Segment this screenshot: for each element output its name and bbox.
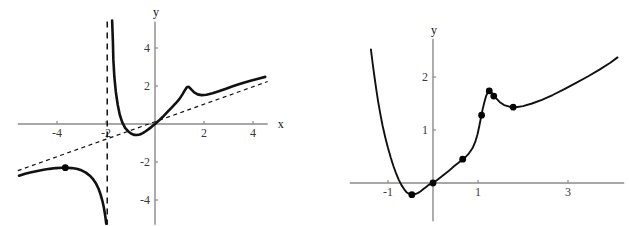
main-curve — [371, 49, 618, 194]
y-axis-label: y — [153, 5, 159, 19]
x-tick-label: -4 — [52, 126, 62, 140]
x-tick-label: 1 — [475, 185, 481, 199]
x-axis-label: x — [278, 117, 284, 131]
x-tick-label: 3 — [565, 185, 571, 199]
right-plot-panel: -11312xy — [314, 0, 628, 226]
trough-point — [510, 104, 517, 111]
rise-point — [459, 156, 466, 163]
y-tick-label: -2 — [140, 155, 150, 169]
left-plot-svg: -4-224-4-224xy — [0, 0, 314, 226]
pre-peak-point — [478, 112, 485, 119]
x-tick-label: -2 — [101, 126, 111, 140]
right-plot-svg: -11312xy — [314, 0, 628, 226]
y-tick-label: -4 — [140, 193, 150, 207]
y-tick-label: 2 — [144, 79, 150, 93]
branch-upper-right — [112, 20, 265, 135]
figure-container: -4-224-4-224xy -11312xy — [0, 0, 629, 226]
y-tick-label: 4 — [144, 41, 150, 55]
x-tick-label: -1 — [383, 185, 393, 199]
origin-point — [430, 180, 437, 187]
left-plot-panel: -4-224-4-224xy — [0, 0, 314, 226]
minimum-point — [408, 191, 415, 198]
y-tick-label: 2 — [422, 70, 428, 84]
peak-point — [486, 87, 493, 94]
local-max-point — [62, 164, 69, 171]
x-tick-label: 4 — [250, 126, 256, 140]
branch-lower-left — [19, 168, 106, 224]
y-axis-label: y — [431, 23, 437, 37]
y-tick-label: 1 — [422, 123, 428, 137]
x-tick-label: 2 — [201, 126, 207, 140]
post-peak-point — [490, 93, 497, 100]
